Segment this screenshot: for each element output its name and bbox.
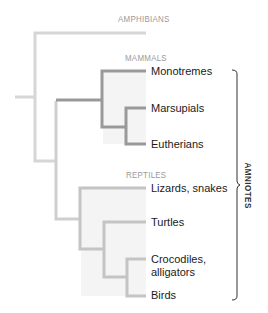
reptile-clade-fill (81, 189, 146, 296)
phylogenetic-tree (0, 0, 268, 313)
amniotes-label: AMNIOTES (243, 162, 253, 205)
taxon-birds: Birds (151, 289, 176, 302)
taxon-lizards-snakes: Lizards, snakes (151, 182, 227, 195)
taxon-monotremes: Monotremes (151, 65, 212, 78)
taxon-marsupials: Marsupials (151, 102, 204, 115)
taxon-crocodiles: Crocodiles, (151, 253, 206, 266)
taxon-alligators: alligators (151, 266, 195, 279)
mammals-group-label: MAMMALS (125, 53, 167, 63)
taxon-eutherians: Eutherians (151, 138, 204, 151)
taxon-turtles: Turtles (151, 216, 184, 229)
amniotes-bracket (232, 70, 240, 300)
amphibians-group-label: AMPHIBIANS (118, 14, 169, 24)
reptiles-group-label: REPTILES (126, 170, 166, 180)
amniote-stem (56, 101, 80, 219)
